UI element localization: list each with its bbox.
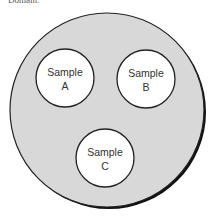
sample-b-label-line1: Sample xyxy=(128,67,164,79)
sample-b-circle xyxy=(117,50,175,108)
sample-a-label-line1: Sample xyxy=(47,66,83,78)
sample-c: Sample C xyxy=(76,129,134,187)
sample-c-circle xyxy=(76,129,134,187)
sample-domain-diagram: Sample A Sample B Sample C xyxy=(0,0,216,216)
sample-a-label-line2: A xyxy=(61,80,68,92)
sample-a: Sample A xyxy=(36,49,94,107)
sample-a-circle xyxy=(36,49,94,107)
sample-b: Sample B xyxy=(117,50,175,108)
sample-b-label-line2: B xyxy=(142,81,149,93)
sample-c-label-line2: C xyxy=(101,160,109,172)
sample-c-label-line1: Sample xyxy=(87,146,123,158)
